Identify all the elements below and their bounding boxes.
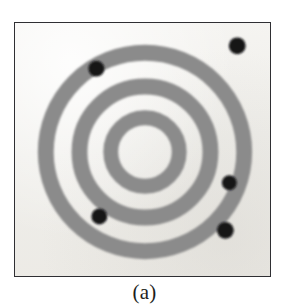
marker-dot-1 — [229, 37, 246, 54]
marker-dot-3 — [222, 175, 237, 190]
figure-caption: (a) — [0, 279, 289, 305]
marker-dot-5 — [217, 222, 234, 239]
figure-root: (a) — [0, 0, 289, 307]
marker-dot-2 — [88, 61, 104, 77]
marker-dot-4 — [91, 209, 107, 225]
marker-dots-graphic — [15, 23, 270, 276]
figure-image-panel — [14, 22, 271, 277]
